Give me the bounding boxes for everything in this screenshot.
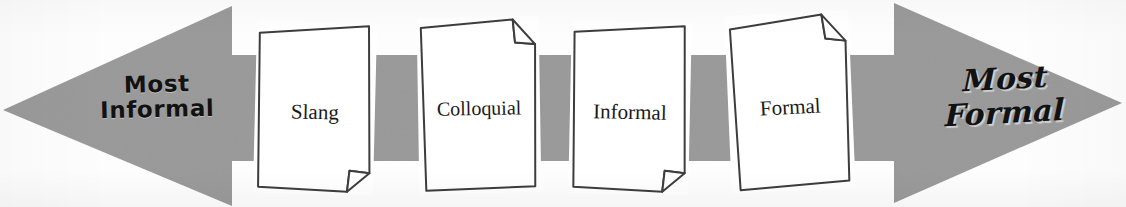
document-card-colloquial[interactable]: Colloquial [417, 16, 542, 194]
document-card-slang[interactable]: Slang [253, 21, 377, 196]
label-most-informal-line2: Informal [62, 95, 252, 124]
label-most-informal: Most Informal [62, 70, 253, 123]
card-label-colloquial: Colloquial [418, 96, 540, 121]
formality-continuum-diagram: Most Informal Most Formal Slang Colloqui… [0, 0, 1126, 207]
label-most-formal: Most Formal [905, 57, 1106, 135]
card-label-informal: Informal [570, 99, 690, 127]
document-card-informal[interactable]: Informal [568, 21, 692, 195]
document-card-formal[interactable]: Formal [724, 10, 855, 193]
card-label-slang: Slang [255, 99, 376, 127]
